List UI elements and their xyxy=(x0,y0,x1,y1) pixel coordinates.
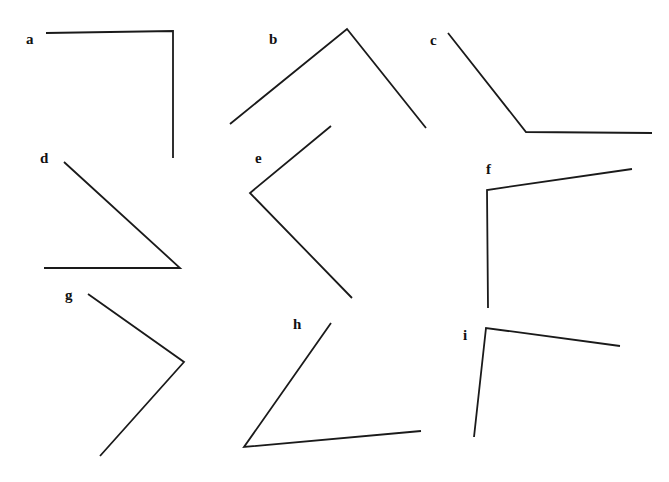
sheet-background xyxy=(0,0,669,482)
angle-label-f: f xyxy=(486,162,491,177)
angle-figures-canvas xyxy=(0,0,669,482)
angle-label-g: g xyxy=(65,288,73,303)
angle-label-e: e xyxy=(255,151,262,166)
angle-label-b: b xyxy=(269,32,277,47)
angle-label-d: d xyxy=(40,151,48,166)
angle-figures-sheet: abcdefghi xyxy=(0,0,669,482)
angle-label-c: c xyxy=(430,33,437,48)
angle-label-a: a xyxy=(26,32,34,47)
angle-label-h: h xyxy=(293,317,301,332)
angle-label-i: i xyxy=(463,328,467,343)
